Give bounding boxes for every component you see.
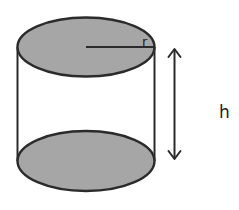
height-arrow: [169, 49, 181, 159]
height-label: h: [219, 102, 230, 122]
bottom-base-ellipse: [18, 131, 155, 191]
radius-label: r: [142, 34, 148, 49]
cylinder-diagram: r h: [0, 0, 239, 210]
